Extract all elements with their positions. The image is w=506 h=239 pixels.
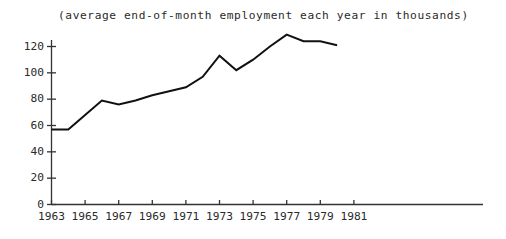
x-tick-label: 1969 [139, 210, 166, 223]
y-tick-label: 40 [10, 145, 44, 158]
x-axis [52, 200, 484, 205]
x-tick-label: 1973 [206, 210, 233, 223]
x-tick-label: 1971 [172, 210, 199, 223]
y-tick-label: 20 [10, 171, 44, 184]
x-tick-label: 1963 [38, 210, 65, 223]
chart-plot-area [0, 0, 506, 239]
x-tick-label: 1975 [240, 210, 267, 223]
y-tick-label: 100 [10, 66, 44, 79]
y-axis [47, 40, 56, 205]
y-tick-label: 80 [10, 92, 44, 105]
x-tick-label: 1979 [307, 210, 334, 223]
x-tick-label: 1967 [105, 210, 132, 223]
data-series-line [52, 35, 338, 130]
x-tick-label: 1965 [72, 210, 99, 223]
line-chart: (average end-of-month employment each ye… [0, 0, 506, 239]
y-tick-label: 120 [10, 40, 44, 53]
x-tick-label: 1977 [273, 210, 300, 223]
y-tick-label: 60 [10, 119, 44, 132]
x-tick-label: 1981 [340, 210, 367, 223]
